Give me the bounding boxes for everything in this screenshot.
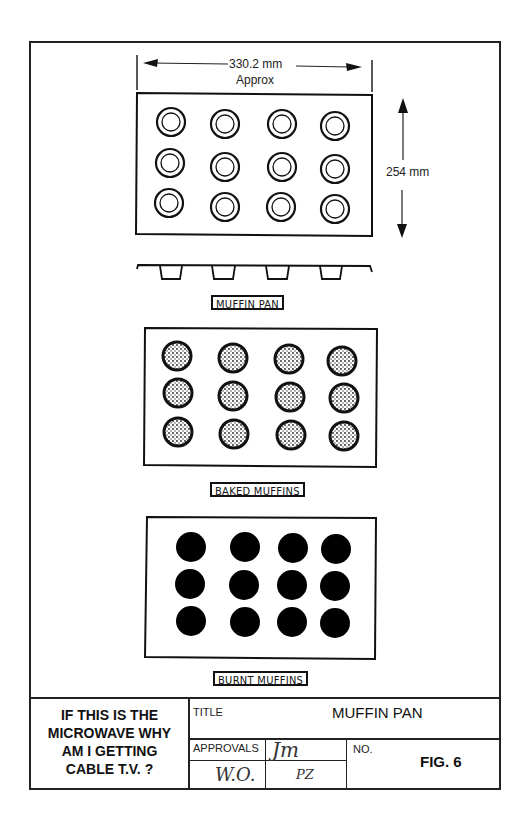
muffin-pan-top-view [136,93,372,236]
title-label: TITLE [193,706,223,718]
label-burnt-muffins: BURNT MUFFINS [213,671,308,686]
approvals-label: APPROVALS [193,742,259,754]
approvals-col-divider [265,738,266,790]
approval-signature-1: Jm [272,738,299,762]
muffin-pan-side-view [137,265,372,279]
baked-muffins-view [144,328,377,467]
joke-line-1: IF THIS IS THE [31,706,188,724]
approval-signature-2: W.O. [215,764,256,785]
width-dimension-label: 330.2 mm [229,57,282,71]
muffin-cups-empty [155,108,349,223]
no-col-divider [346,738,347,790]
approval-signature-3: PZ [296,767,314,782]
title-row-divider [188,738,501,740]
joke-line-3: AM I GETTING [31,742,188,760]
joke-line-4: CABLE T.V. ? [31,760,188,778]
no-label: NO. [353,743,373,755]
label-muffin-pan: MUFFIN PAN [211,295,284,310]
figure-number: FIG. 6 [420,753,462,770]
label-baked-muffins: BAKED MUFFINS [210,482,305,497]
burnt-muffins [175,532,351,638]
height-dimension-label: 254 mm [386,165,429,179]
joke-line-2: MICROWAVE WHY [31,724,188,742]
burnt-muffins-view [145,517,376,659]
width-dimension-sublabel: Approx [236,73,274,87]
joke-text: IF THIS IS THE MICROWAVE WHY AM I GETTIN… [31,706,188,778]
baked-muffins [163,342,358,450]
title-value: MUFFIN PAN [332,704,423,721]
approvals-row-divider [188,760,347,761]
title-block-divider-vertical [188,697,190,790]
